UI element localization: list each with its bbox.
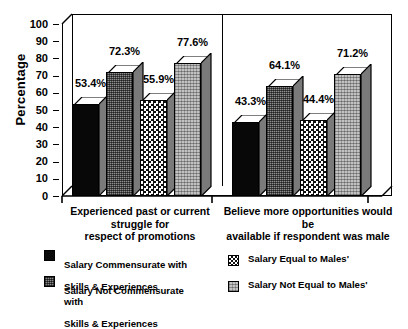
legend-item-3: Salary Equal to Males' <box>228 253 398 266</box>
y-tick-mark-30 <box>53 144 59 145</box>
category-1-line-1: Experienced past or current struggle for <box>70 205 209 230</box>
y-tick-label-90: 90 <box>14 36 48 47</box>
bar-top-face <box>174 53 211 63</box>
y-tick-mark-40 <box>53 127 59 128</box>
legend-swatch-black-icon <box>44 250 55 261</box>
bar-front-face <box>232 122 259 196</box>
y-tick-label-20: 20 <box>14 156 48 167</box>
y-tick-mark-90 <box>53 41 59 42</box>
legend-swatch-midgray-icon <box>44 276 55 287</box>
x-axis-category-label-1: Experienced past or current struggle for… <box>50 205 230 243</box>
bar-front-face <box>334 74 361 196</box>
bar-value-label-g2-s4: 71.2% <box>322 48 383 59</box>
legend-swatch-checker-icon <box>228 255 239 266</box>
bar-side-face <box>201 53 212 196</box>
category-2-line-1: Believe more opportunities would be <box>224 205 393 230</box>
bar-top-face <box>140 90 177 100</box>
category-1-line-2: respect of promotions <box>85 230 196 242</box>
y-tick-label-100: 100 <box>14 19 48 30</box>
bar-value-label-g1-s4: 77.6% <box>162 37 223 48</box>
y-tick-mark-80 <box>53 58 59 59</box>
bar-group-2-series-3 <box>300 110 337 196</box>
y-tick-label-70: 70 <box>14 70 48 81</box>
y-axis-line <box>62 24 63 196</box>
bar-top-face <box>266 76 303 86</box>
bar-group-1-series-3 <box>140 90 177 196</box>
legend-label-3: Salary Equal to Males' <box>248 253 349 264</box>
bar-value-label-g1-s2: 72.3% <box>94 46 155 57</box>
bar-front-face <box>300 120 327 196</box>
legend-label-4: Salary Not Equal to Males' <box>248 279 368 290</box>
legend-label-1-line-1: Salary Commensurate with <box>64 259 187 270</box>
legend-label-2-line-1: Salary Not Commensurate with <box>64 285 184 307</box>
y-tick-mark-50 <box>53 110 59 111</box>
bar-group-1-series-1 <box>72 94 109 196</box>
x-axis-category-label-2: Believe more opportunities would be avai… <box>218 205 398 243</box>
bar-top-face <box>334 64 371 74</box>
y-tick-label-60: 60 <box>14 87 48 98</box>
y-tick-label-30: 30 <box>14 139 48 150</box>
bar-top-face <box>300 110 337 120</box>
legend-item-4: Salary Not Equal to Males' <box>228 279 398 292</box>
legend-swatch-lightgray-icon <box>228 281 239 292</box>
y-tick-label-10: 10 <box>14 173 48 184</box>
bar-side-face <box>361 64 372 196</box>
y-tick-label-50: 50 <box>14 105 48 116</box>
legend-label-2: Salary Not Commensurate with Skills & Ex… <box>64 274 204 329</box>
bar-top-face <box>72 94 109 104</box>
y-tick-mark-10 <box>53 179 59 180</box>
legend-label-2-line-2: Skills & Experiences <box>64 318 158 329</box>
y-tick-mark-60 <box>53 93 59 94</box>
category-2-line-2: available if respondent was male <box>226 230 389 242</box>
bar-front-face <box>174 63 201 196</box>
bar-group-2-series-1 <box>232 112 269 196</box>
bar-value-label-g2-s2: 64.1% <box>254 60 315 71</box>
bar-group-2-series-4 <box>334 64 371 196</box>
y-tick-mark-100 <box>53 24 59 25</box>
bar-front-face <box>106 72 133 196</box>
bar-front-face <box>72 104 99 196</box>
bar-top-face <box>106 62 143 72</box>
y-tick-mark-70 <box>53 76 59 77</box>
y-tick-mark-20 <box>53 162 59 163</box>
bar-front-face <box>140 100 167 196</box>
y-tick-mark-0 <box>53 196 59 197</box>
y-tick-label-0: 0 <box>14 191 48 202</box>
y-tick-label-40: 40 <box>14 122 48 133</box>
legend-item-2: Salary Not Commensurate with Skills & Ex… <box>44 274 204 329</box>
bar-top-face <box>232 112 269 122</box>
bar-group-1-series-4 <box>174 53 211 196</box>
y-tick-label-80: 80 <box>14 53 48 64</box>
